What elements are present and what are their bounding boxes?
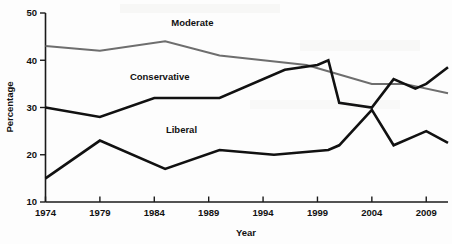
- x-tick-label: 1989: [198, 207, 219, 218]
- series-label-liberal: Liberal: [166, 124, 197, 135]
- y-axis: 1020304050: [26, 7, 45, 207]
- y-tick-label: 10: [26, 196, 37, 207]
- x-tick-label: 2009: [416, 207, 437, 218]
- y-axis-tick-labels: 1020304050: [26, 7, 37, 207]
- y-axis-title: Percentage: [4, 81, 15, 132]
- series-label-moderate: Moderate: [171, 17, 213, 28]
- y-axis-ticks: [40, 13, 46, 202]
- x-axis-ticks: [46, 197, 427, 203]
- y-tick-label: 50: [26, 7, 37, 18]
- x-tick-label: 1979: [89, 207, 110, 218]
- series-inline-labels: ModerateConservativeLiberal: [130, 17, 214, 135]
- x-axis: 19741979198419891994199920042009: [35, 197, 448, 219]
- y-tick-label: 30: [26, 102, 37, 113]
- x-axis-title: Year: [236, 227, 256, 238]
- series-label-conservative: Conservative: [130, 71, 190, 82]
- x-axis-tick-labels: 19741979198419891994199920042009: [35, 207, 437, 218]
- line-chart: 1020304050 19741979198419891994199920042…: [0, 0, 452, 244]
- x-tick-label: 1974: [35, 207, 57, 218]
- series-line-liberal: [46, 110, 449, 179]
- x-tick-label: 1994: [252, 207, 274, 218]
- y-tick-label: 20: [26, 149, 37, 160]
- series-line-conservative: [46, 60, 449, 117]
- x-tick-label: 1999: [307, 207, 328, 218]
- chart-page: 1020304050 19741979198419891994199920042…: [0, 0, 452, 244]
- y-tick-label: 40: [26, 55, 37, 66]
- x-tick-label: 2004: [361, 207, 383, 218]
- x-tick-label: 1984: [144, 207, 166, 218]
- series-lines: [46, 41, 449, 178]
